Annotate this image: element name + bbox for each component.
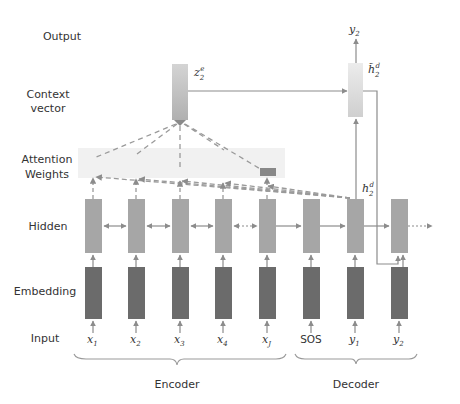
embedding-box-x1 [85, 267, 102, 319]
context-vector-box [172, 64, 188, 120]
context-sub: 2 [199, 74, 205, 82]
embedding-box-x2 [128, 267, 145, 319]
encoder-label: Encoder [155, 378, 200, 391]
output-label: y2 [348, 23, 360, 38]
svg-text:y2: y2 [348, 23, 360, 38]
hidden-box-y2 [391, 199, 408, 253]
label-input: Input [31, 332, 60, 345]
encoder-attention-vdashes [93, 178, 267, 199]
label-context-line1: Context [26, 88, 70, 101]
decoder-brace [295, 354, 417, 364]
hidden-box-x3 [172, 199, 189, 253]
embedding-box-x4 [215, 267, 232, 319]
input-x2: x2 [130, 333, 141, 348]
input-to-embedding-arrows [93, 321, 399, 333]
decoder-to-encoder-dashes [96, 177, 350, 198]
label-attention-line1: Attention [22, 153, 73, 166]
input-sos: SOS [300, 333, 322, 345]
attentional-hidden-label: h̃2d [368, 62, 381, 79]
svg-text:h2d: h2d [362, 181, 375, 198]
hd-sup: d [370, 181, 375, 189]
hidden-box-x1 [85, 199, 102, 253]
embedding-layer [85, 267, 408, 319]
embedding-to-hidden-arrows [93, 255, 403, 267]
input-xJ: xJ [262, 333, 272, 348]
ht-sub: 2 [374, 71, 380, 79]
input-x4: x4 [217, 333, 228, 348]
embedding-box-sos [303, 267, 320, 319]
input-x3: x3 [174, 333, 185, 348]
embedding-box-y1 [347, 267, 364, 319]
decoder-hidden-label: h2d [362, 181, 375, 198]
label-output: Output [43, 30, 82, 43]
hidden-box-sos [303, 199, 320, 253]
context-sup: e [200, 65, 204, 73]
hd-sub: 2 [368, 190, 374, 198]
label-context-line2: vector [31, 102, 66, 115]
decoder-label: Decoder [333, 378, 380, 391]
hd-base: h [362, 182, 369, 195]
attention-weights-band [78, 148, 285, 178]
input-y1: y1 [348, 333, 360, 348]
embedding-box-y2 [391, 267, 408, 319]
ht-base: h̃ [368, 63, 375, 76]
hidden-box-xJ [259, 199, 276, 253]
embedding-box-x3 [172, 267, 189, 319]
label-hidden: Hidden [28, 220, 67, 233]
output-sub: 2 [354, 30, 360, 38]
hidden-box-y1 [347, 199, 364, 253]
hidden-box-x4 [215, 199, 232, 253]
svg-text:z2e: z2e [193, 65, 205, 82]
input-labels: x1 x2 x3 x4 xJ SOS y1 y2 [87, 333, 404, 348]
seq2seq-attention-diagram: Output Context vector Attention Weights … [0, 0, 460, 404]
encoder-brace [74, 354, 286, 365]
row-labels: Output Context vector Attention Weights … [14, 30, 82, 345]
context-vector-label: z2e [193, 65, 205, 82]
svg-text:h̃2d: h̃2d [368, 62, 381, 79]
input-x1: x1 [87, 333, 98, 348]
attentional-hidden-box [348, 63, 363, 117]
embedding-box-xJ [259, 267, 276, 319]
label-attention-line2: Weights [25, 168, 69, 181]
attention-weight-highlight [260, 168, 276, 176]
input-y2: y2 [392, 333, 404, 348]
ht-sup: d [376, 62, 381, 70]
label-embedding: Embedding [14, 285, 76, 298]
hidden-box-x2 [128, 199, 145, 253]
